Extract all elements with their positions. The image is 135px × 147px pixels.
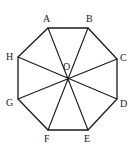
vertex-label-d: D	[120, 98, 127, 109]
vertex-label-c: C	[120, 52, 127, 63]
vertex-label-a: A	[43, 13, 51, 24]
center-label-o: O	[63, 61, 70, 72]
vertex-label-h: H	[6, 51, 13, 62]
vertex-label-e: E	[84, 133, 90, 144]
vertex-label-b: B	[86, 13, 93, 24]
octagon-diagram: A B C D E F G H O	[0, 0, 135, 147]
vertex-label-g: G	[6, 97, 13, 108]
vertex-label-f: F	[44, 133, 50, 144]
